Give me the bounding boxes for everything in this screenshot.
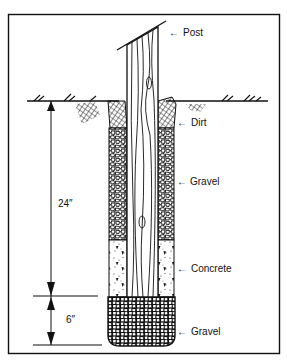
gravel-bottom-arrow-icon: ← (177, 326, 187, 338)
label-dirt: Dirt (191, 117, 207, 129)
label-gravel-upper: Gravel (190, 176, 219, 188)
dimension-label-24: 24″ (58, 198, 73, 210)
gravel-layer-bottom (108, 297, 175, 346)
concrete-layer (109, 240, 127, 297)
label-concrete: Concrete (191, 263, 232, 275)
dimension-label-6: 6″ (66, 314, 75, 326)
post-arrow-icon: ← (169, 27, 179, 39)
post-hole-diagram (0, 0, 287, 362)
dirt-arrow-icon: ← (177, 117, 187, 129)
gravel-layer-upper (109, 128, 127, 240)
gravel-upper-arrow-icon: ← (177, 176, 187, 188)
label-post: Post (183, 27, 203, 39)
dirt-layer (108, 101, 127, 128)
label-gravel-bottom: Gravel (191, 326, 220, 338)
concrete-arrow-icon: ← (177, 263, 187, 275)
